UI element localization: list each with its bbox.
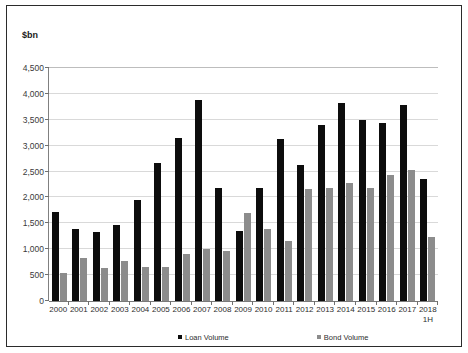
bar-loan-volume xyxy=(72,229,79,301)
bar-bond-volume xyxy=(101,268,108,301)
x-axis-tick-label: 2001 xyxy=(69,305,90,325)
bar-group xyxy=(131,68,151,301)
bar-group xyxy=(192,68,212,301)
y-axis-tick-label: 4,500 xyxy=(23,63,44,73)
bar-loan-volume xyxy=(52,212,59,301)
y-axis-tick-label: 1,000 xyxy=(23,244,44,254)
x-axis-tick-label: 2008 xyxy=(212,305,233,325)
bar-bond-volume xyxy=(387,175,394,301)
bar-loan-volume xyxy=(359,120,366,301)
bar-loan-volume xyxy=(175,138,182,301)
y-axis-tick-label: 2,500 xyxy=(23,167,44,177)
x-axis-tick-label: 2000 xyxy=(48,305,69,325)
x-axis-tick-label: 2011 xyxy=(274,305,295,325)
bar-loan-volume xyxy=(236,231,243,301)
legend-label-loan: Loan Volume xyxy=(185,333,229,342)
bar-loan-volume xyxy=(277,139,284,301)
bar-group xyxy=(315,68,335,301)
bar-bond-volume xyxy=(80,258,87,301)
bar-bond-volume xyxy=(223,251,230,301)
bar-bond-volume xyxy=(428,237,435,301)
bar-loan-volume xyxy=(318,125,325,301)
x-axis-labels: 2000200120022003200420052006200720082009… xyxy=(48,305,438,325)
bar-loan-volume xyxy=(297,165,304,301)
x-axis-tick-label: 2014 xyxy=(335,305,356,325)
bar-bond-volume xyxy=(305,189,312,301)
legend-item-loan-volume: Loan Volume xyxy=(178,333,229,342)
bar-loan-volume xyxy=(134,200,141,301)
y-axis-title: $bn xyxy=(22,30,38,40)
bar-loan-volume xyxy=(93,232,100,301)
bar-group xyxy=(69,68,89,301)
bar-loan-volume xyxy=(195,100,202,301)
bar-group xyxy=(417,68,437,301)
x-axis-tick-label: 2007 xyxy=(192,305,213,325)
bar-bond-volume xyxy=(264,229,271,301)
bar-group xyxy=(233,68,253,301)
bar-bond-volume xyxy=(183,254,190,301)
y-axis-tick-label: 4,000 xyxy=(23,89,44,99)
bar-bond-volume xyxy=(326,188,333,301)
x-axis-tick-label: 2002 xyxy=(89,305,110,325)
x-axis-tick-label: 2016 xyxy=(377,305,398,325)
bar-group xyxy=(295,68,315,301)
chart-legend: Loan Volume Bond Volume xyxy=(48,330,438,344)
bar-group xyxy=(274,68,294,301)
legend-item-bond-volume: Bond Volume xyxy=(317,333,369,342)
x-axis-tick-label: 2015 xyxy=(356,305,377,325)
bar-group xyxy=(213,68,233,301)
legend-swatch-loan-icon xyxy=(178,335,182,339)
bar-group xyxy=(172,68,192,301)
bar-bond-volume xyxy=(346,183,353,301)
x-axis-tick-label: 2003 xyxy=(110,305,131,325)
bar-group xyxy=(49,68,69,301)
plot-area: 4,5004,0003,5003,0002,5002,0001,5001,000… xyxy=(48,68,438,301)
bar-loan-volume xyxy=(400,105,407,301)
bar-loan-volume xyxy=(338,103,345,301)
bar-group xyxy=(90,68,110,301)
x-axis-tick-label: 2017 xyxy=(397,305,418,325)
y-axis-tick-label: 3,500 xyxy=(23,115,44,125)
bar-group xyxy=(397,68,417,301)
bar-bond-volume xyxy=(162,267,169,301)
bar-bond-volume xyxy=(60,273,67,301)
bar-loan-volume xyxy=(256,188,263,301)
chart-figure: $bn 4,5004,0003,5003,0002,5002,0001,5001… xyxy=(0,0,468,353)
bar-group xyxy=(356,68,376,301)
bar-loan-volume xyxy=(379,123,386,301)
bar-bond-volume xyxy=(203,249,210,301)
x-axis-tick-label: 2004 xyxy=(130,305,151,325)
y-axis-tick-label: 3,000 xyxy=(23,141,44,151)
bar-group xyxy=(254,68,274,301)
bar-bond-volume xyxy=(285,241,292,301)
x-axis-tick-label: 2013 xyxy=(315,305,336,325)
x-axis-tick-label: 2005 xyxy=(151,305,172,325)
bar-bond-volume xyxy=(367,188,374,301)
bar-group xyxy=(336,68,356,301)
bar-groups xyxy=(49,68,438,301)
bar-group xyxy=(151,68,171,301)
bar-bond-volume xyxy=(142,267,149,301)
y-axis-tick-label: 0 xyxy=(39,296,44,306)
y-axis-tick-label: 1,500 xyxy=(23,218,44,228)
bar-loan-volume xyxy=(154,163,161,301)
x-axis-tick-label: 2012 xyxy=(294,305,315,325)
bar-loan-volume xyxy=(420,179,427,301)
x-axis-tick-label: 2006 xyxy=(171,305,192,325)
legend-swatch-bond-icon xyxy=(317,335,321,339)
x-axis-tick-label: 2009 xyxy=(233,305,254,325)
bar-bond-volume xyxy=(408,170,415,301)
x-axis-tick-label: 2018 1H xyxy=(418,305,439,325)
bar-loan-volume xyxy=(113,225,120,301)
y-axis-tick-label: 500 xyxy=(30,270,44,280)
bar-bond-volume xyxy=(121,261,128,301)
bar-group xyxy=(377,68,397,301)
bar-group xyxy=(110,68,130,301)
legend-label-bond: Bond Volume xyxy=(324,333,369,342)
bar-bond-volume xyxy=(244,213,251,301)
bar-loan-volume xyxy=(215,188,222,301)
y-axis-tick-label: 2,000 xyxy=(23,192,44,202)
x-axis-tick-label: 2010 xyxy=(253,305,274,325)
